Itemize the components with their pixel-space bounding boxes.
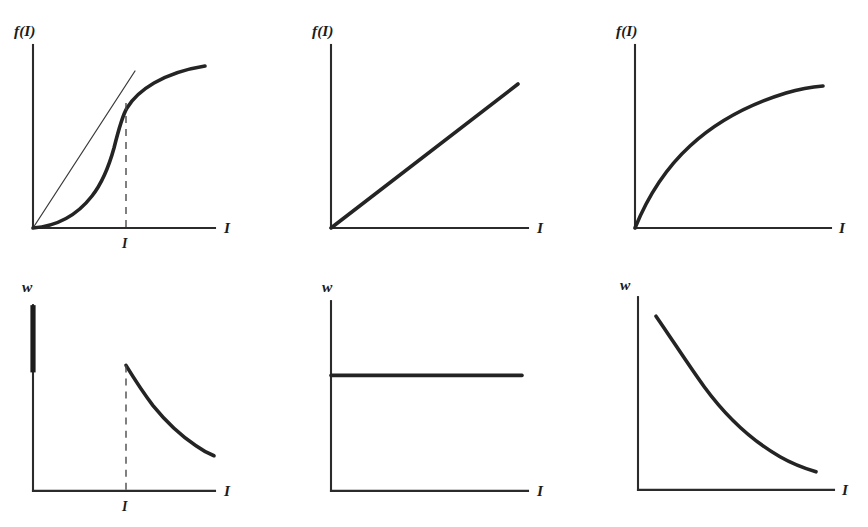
panel-top-left: f(I) I I — [0, 0, 290, 264]
y-axis-label-bottom-right: w — [620, 276, 631, 293]
x-axis-label-top-right: I — [838, 219, 846, 236]
x-axis-label-top-middle: I — [536, 219, 544, 236]
decay-curve-bottom-left — [126, 365, 214, 455]
x-tick-label-top-left: I — [121, 236, 128, 251]
y-axis-label-top-middle: f(I) — [312, 22, 334, 40]
linear-curve-top-middle — [331, 84, 518, 228]
y-axis-label-top-left: f(I) — [14, 22, 36, 40]
x-axis-label-bottom-right: I — [841, 481, 849, 498]
y-axis-label-bottom-left: w — [22, 278, 33, 295]
panel-top-right: f(I) I — [578, 0, 868, 264]
concave-curve-top-right — [635, 86, 823, 228]
decay-curve-bottom-right — [656, 316, 816, 472]
panel-top-middle: f(I) I — [290, 0, 580, 264]
sigmoid-curve-top-left — [33, 66, 205, 228]
panel-bottom-right: w I — [578, 264, 868, 527]
x-axis-label-bottom-middle: I — [536, 482, 544, 499]
y-axis-label-bottom-middle: w — [322, 278, 333, 295]
y-axis-label-top-right: f(I) — [616, 22, 638, 40]
panel-bottom-left: w I I — [0, 264, 290, 527]
x-axis-label-top-left: I — [223, 219, 231, 236]
figure-root: f(I) I I f(I) I f(I) I — [0, 0, 868, 527]
panel-bottom-middle: w I — [290, 264, 580, 527]
x-axis-label-bottom-left: I — [223, 482, 231, 499]
x-tick-label-bottom-left: I — [121, 499, 128, 514]
